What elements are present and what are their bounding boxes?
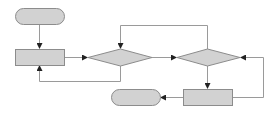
process2-box xyxy=(184,90,233,106)
decision1-diamond xyxy=(88,49,152,66)
edge-process2-to-decision2 xyxy=(232,58,264,98)
edge-decision1-to-process1 xyxy=(40,66,121,82)
edge-decision2-to-decision1 xyxy=(121,26,208,50)
end-terminator xyxy=(112,90,161,106)
flowchart-diagram xyxy=(0,0,277,114)
decision2-diamond xyxy=(177,49,240,66)
process1-box xyxy=(16,50,65,66)
start-terminator xyxy=(16,9,65,25)
nodes xyxy=(16,9,241,106)
edges xyxy=(40,24,264,98)
